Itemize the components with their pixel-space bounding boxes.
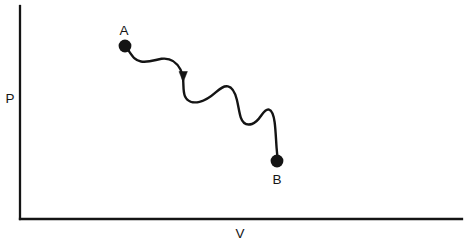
state-label-a: A — [119, 23, 128, 38]
state-dot-a — [119, 40, 132, 53]
process-path — [129, 51, 278, 156]
state-dot-b — [271, 155, 284, 168]
flow-direction-arrow-icon — [179, 72, 187, 83]
x-axis-label: V — [235, 226, 244, 241]
y-axis-label: P — [5, 91, 14, 106]
state-label-b: B — [272, 172, 281, 187]
pv-diagram-canvas: A B P V — [0, 0, 469, 250]
pv-diagram: A B P V — [0, 0, 469, 250]
